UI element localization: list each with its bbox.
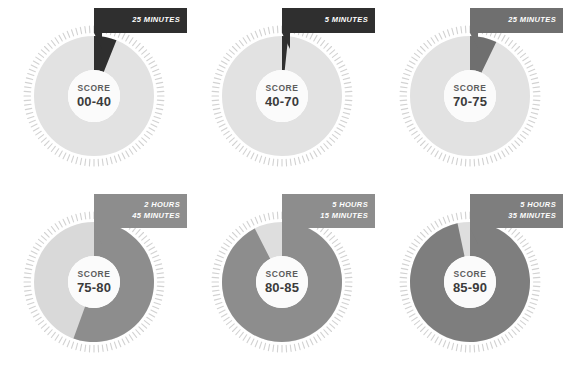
time-callout-line: 2 HOURS (100, 200, 180, 211)
time-callout: 5 HOURS35 MINUTES (470, 194, 563, 228)
donut-center-hole (68, 70, 120, 122)
donut-gauge-grid: 25 MINUTESSCORE00-405 MINUTESSCORE40-702… (0, 0, 564, 372)
time-callout: 5 HOURS15 MINUTES (282, 194, 375, 228)
callout-tail (470, 33, 478, 49)
donut-gauge-75-80: 2 HOURS45 MINUTESSCORE75-80 (0, 186, 188, 372)
time-callout: 5 MINUTES (282, 8, 375, 33)
donut-gauge-80-85: 5 HOURS15 MINUTESSCORE80-85 (188, 186, 376, 372)
donut-gauge-40-70: 5 MINUTESSCORE40-70 (188, 0, 376, 186)
time-callout-line: 15 MINUTES (288, 211, 368, 222)
callout-tail (470, 228, 478, 244)
time-callout-line: 25 MINUTES (100, 15, 180, 26)
donut-center-hole (256, 256, 308, 308)
donut-center-hole (444, 256, 496, 308)
callout-tail (94, 228, 102, 244)
donut-center-hole (256, 70, 308, 122)
donut-center-hole (68, 256, 120, 308)
donut-gauge-85-90: 5 HOURS35 MINUTESSCORE85-90 (376, 186, 564, 372)
time-callout-line: 5 HOURS (288, 200, 368, 211)
time-callout: 25 MINUTES (94, 8, 187, 33)
time-callout-line: 35 MINUTES (476, 211, 556, 222)
time-callout-line: 45 MINUTES (100, 211, 180, 222)
time-callout-line: 25 MINUTES (476, 15, 556, 26)
donut-gauge-00-40: 25 MINUTESSCORE00-40 (0, 0, 188, 186)
donut-center-hole (444, 70, 496, 122)
callout-tail (282, 228, 290, 244)
callout-tail (94, 33, 102, 49)
time-callout: 2 HOURS45 MINUTES (94, 194, 187, 228)
donut-gauge-70-75: 25 MINUTESSCORE70-75 (376, 0, 564, 186)
callout-tail (282, 33, 290, 49)
time-callout: 25 MINUTES (470, 8, 563, 33)
time-callout-line: 5 MINUTES (288, 15, 368, 26)
time-callout-line: 5 HOURS (476, 200, 556, 211)
